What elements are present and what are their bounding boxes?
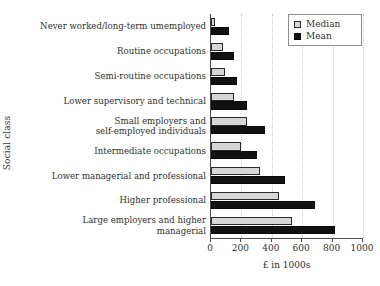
bar-median <box>211 142 241 150</box>
category-label: Never worked/long-term umemployed <box>16 21 206 31</box>
legend-label: Median <box>306 18 340 30</box>
legend-label: Mean <box>306 30 332 42</box>
bar-group <box>211 138 363 163</box>
category-label: Large employers and higher managerial <box>16 215 206 236</box>
x-axis-title: £ in 1000s <box>210 260 363 270</box>
x-axis-tick <box>301 238 302 242</box>
bar-mean <box>211 226 335 234</box>
x-axis-tick-label: 1000 <box>342 243 380 253</box>
bar-group <box>211 188 363 213</box>
x-axis-tick <box>271 238 272 242</box>
bar-median <box>211 192 279 200</box>
bar-median <box>211 43 223 51</box>
legend-swatch-icon <box>294 33 301 40</box>
y-axis-title: Social class <box>0 0 14 286</box>
bar-median <box>211 167 260 175</box>
category-label: Routine occupations <box>16 46 206 56</box>
bar-group <box>211 114 363 139</box>
bar-mean <box>211 101 247 109</box>
bar-mean <box>211 176 285 184</box>
x-axis-tick <box>332 238 333 242</box>
bar-median <box>211 117 247 125</box>
bar-chart: Social class Never worked/long-term umem… <box>0 0 380 286</box>
bar-median <box>211 217 292 225</box>
category-label: Small employers and self-employed indivi… <box>16 116 206 137</box>
category-label: Higher professional <box>16 195 206 205</box>
bar-median <box>211 68 225 76</box>
legend-item-mean: Mean <box>294 30 357 42</box>
bar-group <box>211 213 363 238</box>
bar-median <box>211 93 234 101</box>
bar-group <box>211 89 363 114</box>
bar-mean <box>211 27 229 35</box>
category-label: Intermediate occupations <box>16 146 206 156</box>
category-label: Lower managerial and professional <box>16 171 206 181</box>
bar-mean <box>211 201 315 209</box>
legend-item-median: Median <box>294 18 357 30</box>
plot-area <box>210 14 363 238</box>
gridline <box>363 14 364 238</box>
chart-legend: MedianMean <box>288 14 362 46</box>
x-axis-tick <box>210 238 211 242</box>
legend-swatch-icon <box>294 21 301 28</box>
bar-mean <box>211 77 237 85</box>
x-axis-line <box>210 238 363 239</box>
bar-group <box>211 163 363 188</box>
bar-median <box>211 18 215 26</box>
category-label: Semi-routine occupations <box>16 71 206 81</box>
bar-mean <box>211 151 257 159</box>
y-axis-category-labels: Never worked/long-term umemployedRoutine… <box>16 14 206 238</box>
bar-mean <box>211 126 265 134</box>
category-label: Lower supervisory and technical <box>16 96 206 106</box>
x-axis-tick <box>240 238 241 242</box>
x-axis-tick <box>362 238 363 242</box>
bar-mean <box>211 52 234 60</box>
bar-group <box>211 64 363 89</box>
